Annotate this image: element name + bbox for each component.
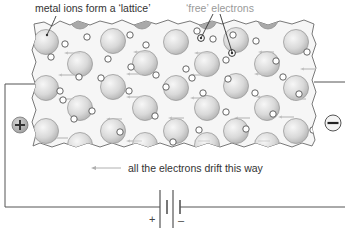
metal-ion — [133, 133, 158, 158]
metal-ion — [164, 30, 189, 55]
free-electron — [128, 64, 134, 70]
metallic-conduction-diagram: metal ions form a ‘lattice’ ‘free’ elect… — [0, 0, 345, 229]
free-electron — [304, 49, 310, 55]
metal-ion — [34, 76, 59, 101]
free-electron — [243, 126, 249, 132]
free-electron — [71, 116, 77, 122]
diagram-canvas — [0, 0, 345, 229]
free-electron — [76, 74, 82, 80]
drift-direction-label: all the electrons drift this way — [128, 163, 263, 174]
metal-ion — [101, 29, 126, 54]
free-electron — [98, 75, 104, 81]
free-electron — [84, 34, 90, 40]
free-electron — [60, 97, 66, 103]
battery-negative-sign: – — [178, 215, 184, 226]
edge-ion — [258, 9, 278, 29]
free-electron — [270, 111, 276, 117]
free-electron — [170, 139, 176, 145]
positive-terminal — [12, 117, 28, 133]
lattice-label: metal ions form a ‘lattice’ — [35, 3, 151, 14]
free-electron — [143, 42, 149, 48]
metal-ion — [34, 30, 59, 55]
metal-ion — [68, 52, 93, 77]
drift-arrow-icon — [91, 166, 121, 170]
free-electron — [127, 32, 133, 38]
battery-symbol — [160, 190, 180, 228]
free-electron — [183, 66, 189, 72]
metal-ion — [195, 52, 220, 77]
free-electron — [117, 129, 123, 135]
free-electron — [223, 109, 229, 115]
metal-ion — [195, 96, 220, 121]
free-electrons-label: ‘free’ electrons — [186, 3, 254, 14]
free-electron — [310, 127, 316, 133]
metal-ion — [255, 96, 280, 121]
metal-ion — [284, 76, 309, 101]
free-electron — [223, 57, 229, 63]
metal-ion — [164, 119, 189, 144]
free-electron — [153, 72, 159, 78]
free-electron — [57, 88, 63, 94]
metal-ion — [224, 28, 249, 53]
free-electron — [252, 90, 258, 96]
free-electron — [273, 58, 279, 64]
metal-ion — [284, 119, 309, 144]
free-electron — [210, 36, 216, 42]
battery-positive-sign: + — [149, 214, 155, 225]
free-electron — [105, 56, 111, 62]
free-electron — [200, 90, 206, 96]
free-electron — [152, 113, 158, 119]
metal-ion — [34, 119, 59, 144]
free-electron — [230, 32, 236, 38]
metal-ion — [68, 133, 93, 158]
free-electron — [189, 75, 195, 81]
metal-ion — [255, 133, 280, 158]
free-electron — [126, 88, 132, 94]
metal-lattice — [32, 9, 316, 158]
free-electron — [62, 41, 68, 47]
free-electron — [280, 74, 286, 80]
free-electron — [163, 84, 169, 90]
free-electron — [296, 91, 302, 97]
free-electron — [196, 127, 202, 133]
negative-terminal — [325, 115, 341, 131]
free-electron — [48, 54, 54, 60]
free-electron — [225, 76, 231, 82]
metal-ion — [133, 51, 158, 76]
metal-ion — [195, 133, 220, 158]
free-electron — [89, 108, 95, 114]
free-electron — [253, 38, 259, 44]
free-electron — [194, 28, 200, 34]
